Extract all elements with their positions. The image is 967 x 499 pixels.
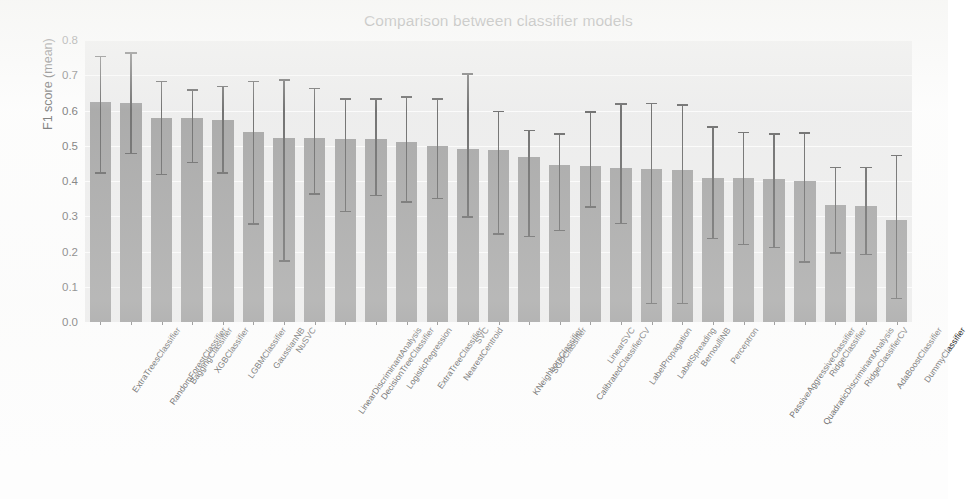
y-tick-label: 0.4 (62, 175, 78, 187)
x-tick-mark (223, 322, 224, 325)
x-tick-mark (560, 322, 561, 325)
y-tick-label: 0.7 (62, 69, 78, 81)
x-tick-mark (713, 322, 714, 325)
x-tick-label: SGDClassifier (550, 326, 588, 375)
y-axis-label: F1 score (mean) (41, 38, 55, 130)
x-tick-mark (897, 322, 898, 325)
x-tick-mark (805, 322, 806, 325)
x-tick-mark (437, 322, 438, 325)
x-tick-mark (376, 322, 377, 325)
x-tick-mark (315, 322, 316, 325)
x-tick-mark (744, 322, 745, 325)
y-tick-label: 0.3 (62, 210, 78, 222)
x-tick-mark (162, 322, 163, 325)
x-tick-mark (407, 322, 408, 325)
x-tick-mark (100, 322, 101, 325)
x-tick-label: ExtraTreesClassifier (131, 326, 182, 394)
x-tick-mark (253, 322, 254, 325)
x-tick-mark (284, 322, 285, 325)
x-tick-mark (345, 322, 346, 325)
x-tick-mark (590, 322, 591, 325)
x-tick-mark (192, 322, 193, 325)
x-tick-mark (774, 322, 775, 325)
x-tick-mark (131, 322, 132, 325)
y-tick-label: 0.1 (62, 281, 78, 293)
y-tick-label: 0.8 (62, 34, 78, 46)
x-tick-mark (621, 322, 622, 325)
x-tick-label: Perceptron (729, 326, 760, 365)
x-tick-label: PassiveAggressiveClassifier (788, 326, 857, 419)
y-tick-label: 0.0 (62, 316, 78, 328)
x-tick-mark (835, 322, 836, 325)
x-tick-mark (529, 322, 530, 325)
x-tick-mark (652, 322, 653, 325)
x-axis-ticks: ExtraTreesClassifierRandomForestClassifi… (85, 0, 912, 499)
x-tick-mark (866, 322, 867, 325)
y-tick-label: 0.5 (62, 140, 78, 152)
x-tick-mark (499, 322, 500, 325)
x-tick-mark (682, 322, 683, 325)
y-tick-label: 0.2 (62, 246, 78, 258)
y-tick-label: 0.6 (62, 105, 78, 117)
x-tick-mark (468, 322, 469, 325)
